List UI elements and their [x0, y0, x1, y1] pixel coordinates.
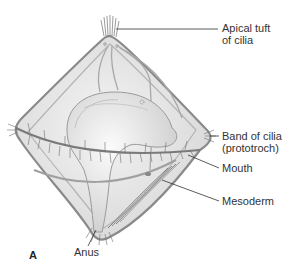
leader-mesoderm: [162, 180, 219, 201]
label-band-of-cilia: Band of cilia (prototroch): [222, 130, 282, 154]
label-mesoderm: Mesoderm: [222, 195, 274, 207]
label-band-line2: (prototroch): [222, 142, 282, 154]
label-apical-line2: of cilia: [222, 34, 270, 46]
label-anus: Anus: [74, 246, 99, 258]
panel-letter: A: [29, 249, 37, 261]
label-apical-line1: Apical tuft: [222, 22, 270, 34]
label-apical-tuft: Apical tuft of cilia: [222, 22, 270, 46]
trochophore-diagram: Apical tuft of cilia Band of cilia (prot…: [0, 0, 288, 268]
label-band-line1: Band of cilia: [222, 130, 282, 142]
label-mouth: Mouth: [222, 162, 253, 174]
leader-mouth: [188, 155, 219, 168]
